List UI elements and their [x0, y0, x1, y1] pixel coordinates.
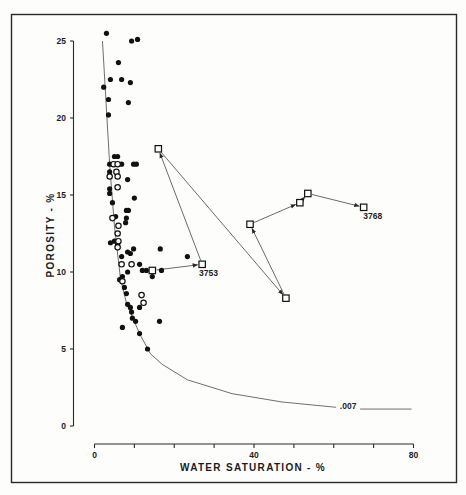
filled-circle-point: [158, 246, 163, 251]
annotations: 37533768.007: [199, 211, 382, 411]
filled-circle-point: [131, 246, 136, 251]
cutoff-curve-line: [102, 41, 411, 409]
open-circle-point: [115, 185, 120, 190]
open-square-point: [155, 146, 161, 152]
open-square-point: [297, 200, 303, 206]
filled-circle-point: [124, 291, 129, 296]
open-circle-point: [141, 300, 146, 305]
y-tick-label: 15: [57, 190, 67, 200]
x-axis: WATER SATURATION - % 04080: [92, 444, 418, 473]
filled-circle-point: [104, 31, 109, 36]
sample-label: 3753: [199, 268, 218, 278]
sample-label: 3768: [363, 211, 382, 221]
open-square-point: [283, 295, 289, 301]
y-tick-label: 20: [57, 113, 67, 123]
y-tick-label: 10: [57, 267, 67, 277]
filled-circle-point: [107, 191, 112, 196]
filled-circle-point: [123, 220, 128, 225]
filled-circle-point: [134, 162, 139, 167]
y-tick-label: 5: [61, 344, 66, 354]
open-square-point: [199, 261, 205, 267]
filled-circle-point: [129, 309, 134, 314]
open-circle-series: [107, 162, 146, 306]
x-tick-label: 40: [249, 450, 259, 460]
filled-circle-point: [106, 97, 111, 102]
open-circle-point: [119, 262, 124, 267]
filled-circle-point: [108, 77, 113, 82]
open-circle-point: [115, 245, 120, 250]
curve-label: .007: [340, 401, 357, 411]
filled-circle-point: [137, 262, 142, 267]
filled-circle-point: [124, 216, 129, 221]
filled-circle-point: [128, 305, 133, 310]
filled-circle-point: [129, 38, 134, 43]
scatter-figure: POROSITY - % 0510152025 WATER SATURATION…: [0, 0, 466, 495]
filled-circle-point: [128, 251, 133, 256]
filled-circle-point: [135, 37, 140, 42]
path-arrow: [254, 205, 296, 223]
open-circle-point: [129, 262, 134, 267]
filled-circle-point: [122, 285, 127, 290]
filled-circle-point: [133, 319, 138, 324]
filled-circle-point: [106, 112, 111, 117]
filled-circle-point: [126, 100, 131, 105]
open-circle-point: [115, 162, 120, 167]
porosity-vs-water-saturation-chart: POROSITY - % 0510152025 WATER SATURATION…: [0, 0, 466, 495]
open-circle-point: [110, 215, 115, 220]
open-square-point: [149, 267, 155, 273]
filled-circle-point: [119, 254, 124, 259]
filled-circle-point: [159, 268, 164, 273]
y-tick-label: 25: [57, 36, 67, 46]
y-axis: POROSITY - % 0510152025: [45, 36, 74, 431]
filled-circle-point: [110, 200, 115, 205]
open-circle-point: [120, 279, 125, 284]
filled-circle-point: [112, 154, 117, 159]
filled-circle-point: [125, 269, 130, 274]
filled-circle-point: [119, 77, 124, 82]
square-marker-series: [149, 146, 367, 302]
filled-circle-point: [144, 268, 149, 273]
path-arrow: [312, 194, 359, 206]
filled-circle-point: [120, 325, 125, 330]
filled-circle-point: [101, 85, 106, 90]
x-axis-title: WATER SATURATION - %: [180, 462, 326, 473]
filled-circle-point: [132, 195, 137, 200]
path-arrow: [252, 228, 284, 294]
filled-circle-point: [126, 208, 131, 213]
y-tick-label: 0: [61, 421, 66, 431]
open-circle-point: [116, 239, 121, 244]
open-square-point: [360, 204, 366, 210]
filled-circle-point: [137, 305, 142, 310]
path-arrow: [161, 152, 283, 295]
filled-circle-point: [125, 177, 130, 182]
filled-circle-point: [128, 80, 133, 85]
x-tick-label: 80: [409, 450, 419, 460]
open-circle-point: [139, 292, 144, 297]
x-tick-label: 0: [92, 450, 97, 460]
filled-circle-point: [145, 346, 150, 351]
filled-circle-point: [157, 319, 162, 324]
open-circle-point: [115, 231, 120, 236]
cutoff-curve: [102, 41, 411, 409]
filled-circle-point: [116, 60, 121, 65]
filled-circle-point: [137, 331, 142, 336]
square-path-arrows: [156, 152, 359, 295]
filled-circle-point: [107, 186, 112, 191]
figure-frame: [12, 15, 457, 483]
filled-circle-point: [185, 254, 190, 259]
y-axis-title: POROSITY - %: [45, 193, 56, 278]
filled-circle-point: [150, 274, 155, 279]
path-arrow: [160, 153, 201, 260]
open-circle-point: [116, 223, 121, 228]
open-circle-point: [115, 174, 120, 179]
open-square-point: [247, 221, 253, 227]
open-circle-point: [107, 174, 112, 179]
open-square-point: [305, 190, 311, 196]
